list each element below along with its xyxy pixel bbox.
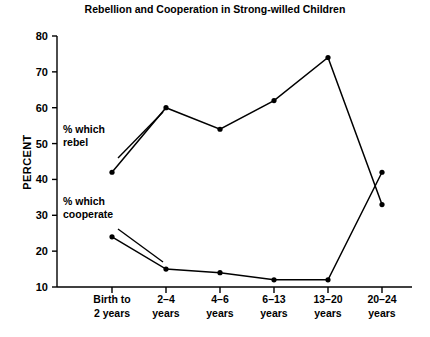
data-point bbox=[217, 270, 222, 275]
annotation-label: cooperate bbox=[63, 208, 113, 220]
annotation-leader-line bbox=[118, 112, 163, 158]
series-line bbox=[112, 172, 382, 280]
annotation-leader-line bbox=[118, 229, 163, 262]
annotation-label: rebel bbox=[63, 136, 88, 148]
y-axis-tick-label: 60 bbox=[36, 102, 48, 114]
x-axis-category-label: years bbox=[152, 307, 180, 319]
chart-container: Rebellion and Cooperation in Strong-will… bbox=[0, 0, 430, 337]
y-axis-tick-label: 20 bbox=[36, 245, 48, 257]
data-point bbox=[217, 127, 222, 132]
y-axis-label: PERCENT bbox=[21, 134, 33, 189]
data-point bbox=[271, 98, 276, 103]
chart-title: Rebellion and Cooperation in Strong-will… bbox=[85, 3, 346, 15]
data-series-group bbox=[109, 55, 384, 283]
y-axis-tick-label: 10 bbox=[36, 281, 48, 293]
x-axis-category-label: 20–24 bbox=[367, 293, 396, 305]
x-axis-category-label: 4–6 bbox=[211, 293, 229, 305]
data-point bbox=[109, 170, 114, 175]
x-axis-category-label: Birth to bbox=[93, 293, 130, 305]
x-axis-category-label: 2 years bbox=[94, 307, 130, 319]
data-point bbox=[379, 170, 384, 175]
data-point bbox=[109, 234, 114, 239]
x-axis-category-label: 13–20 bbox=[313, 293, 342, 305]
x-axis-tick-labels: Birth to2 years2–4years4–6years6–13years… bbox=[93, 293, 396, 319]
data-series bbox=[109, 55, 384, 207]
x-axis-category-label: years bbox=[368, 307, 396, 319]
x-axis-category-label: years bbox=[260, 307, 288, 319]
data-point bbox=[163, 266, 168, 271]
y-axis: 1020304050607080 bbox=[36, 30, 57, 293]
x-axis-category-label: years bbox=[314, 307, 342, 319]
data-point bbox=[271, 277, 276, 282]
line-chart: Rebellion and Cooperation in Strong-will… bbox=[0, 0, 430, 337]
y-axis-tick-label: 50 bbox=[36, 138, 48, 150]
y-axis-tick-label: 80 bbox=[36, 30, 48, 42]
y-axis-tick-label: 70 bbox=[36, 66, 48, 78]
cooperate-annotation: % whichcooperate bbox=[63, 195, 163, 262]
series-line bbox=[112, 58, 382, 205]
annotation-label: % which bbox=[63, 195, 105, 207]
x-axis-category-label: 6–13 bbox=[262, 293, 286, 305]
x-axis-category-label: 2–4 bbox=[157, 293, 175, 305]
rebel-annotation: % whichrebel bbox=[63, 112, 163, 158]
data-point bbox=[325, 55, 330, 60]
y-axis-tick-label: 30 bbox=[36, 209, 48, 221]
data-point bbox=[379, 202, 384, 207]
data-point bbox=[325, 277, 330, 282]
series-annotations: % whichrebel% whichcooperate bbox=[63, 112, 163, 262]
data-series bbox=[109, 170, 384, 283]
x-axis-category-label: years bbox=[206, 307, 234, 319]
data-point bbox=[163, 105, 168, 110]
annotation-label: % which bbox=[63, 123, 105, 135]
y-axis-tick-label: 40 bbox=[36, 173, 48, 185]
